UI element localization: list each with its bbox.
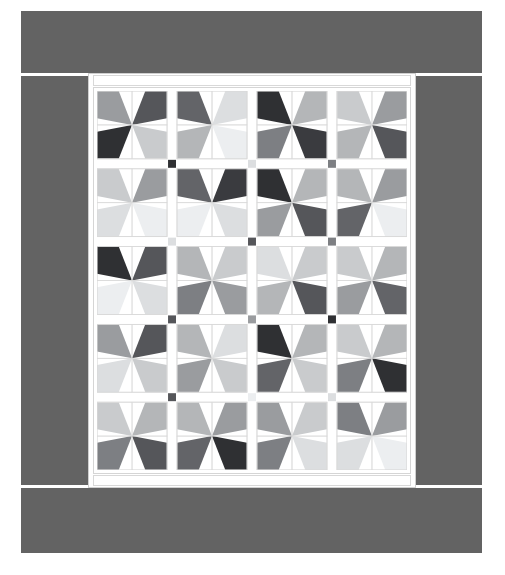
frame-bar-bottom: [93, 475, 411, 486]
quilt-border-top: [21, 11, 482, 73]
cornerstone-r1-c2: [328, 238, 336, 246]
quilt-border-right: [416, 76, 482, 485]
quilt-border-bottom: [21, 488, 482, 553]
quilt-pieced-field: [97, 91, 407, 470]
cornerstone-r1-c1: [248, 238, 256, 246]
cornerstone-r0-c1: [248, 160, 256, 168]
quilt-frame: [88, 73, 416, 488]
cornerstone-r3-c0: [168, 393, 176, 401]
cornerstone-r2-c2: [328, 315, 336, 323]
frame-bar-top: [93, 75, 411, 86]
quilt-photograph: [0, 0, 505, 575]
cornerstone-r2-c1: [248, 315, 256, 323]
quilt-block-grid: [97, 91, 407, 470]
cornerstone-r3-c1: [248, 393, 256, 401]
cornerstone-r0-c0: [168, 160, 176, 168]
quilt-border-left: [21, 76, 88, 485]
cornerstone-r0-c2: [328, 160, 336, 168]
cornerstone-r1-c0: [168, 238, 176, 246]
cornerstone-r2-c0: [168, 315, 176, 323]
cornerstone-r3-c2: [328, 393, 336, 401]
